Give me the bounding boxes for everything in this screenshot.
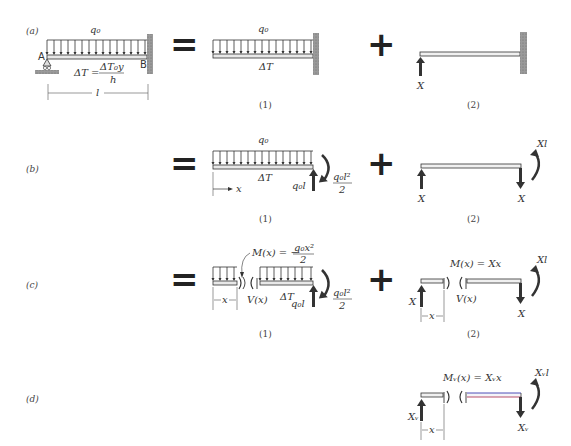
reaction-arrow-up xyxy=(312,291,315,307)
case1-load-label: q₀ xyxy=(258,134,268,145)
case1-fixed-wall xyxy=(313,33,319,75)
case2-caption: (2) xyxy=(467,329,480,339)
temp-denominator: h xyxy=(110,74,116,85)
case2-fixed-wall xyxy=(520,32,527,74)
row-label-d: (d) xyxy=(26,394,39,404)
moment-eq-denominator: 2 xyxy=(299,254,306,265)
x-dimension-label: x xyxy=(222,294,228,305)
moment-eq-lhs: M(x) = − xyxy=(251,247,299,258)
force-arrow-up-left xyxy=(420,405,423,421)
case2-moment-label: Xl xyxy=(536,138,547,149)
plus-sign-c: + xyxy=(367,259,396,299)
cut-moment-right-icon xyxy=(460,277,462,289)
force-left-label: X xyxy=(408,296,417,307)
case1-temp-label: ΔT xyxy=(258,61,274,72)
plus-sign-b: + xyxy=(367,143,396,183)
force-arrow-down-right xyxy=(519,397,522,412)
moment-numerator: q₀l² xyxy=(333,171,351,182)
force-arrow-up-x xyxy=(419,62,422,76)
temp-numerator: ΔT₀y xyxy=(99,61,124,72)
virtual-moment-equation: Mᵥ(x) = Xᵥx xyxy=(442,372,502,383)
moment-arc-icon xyxy=(322,155,329,180)
force-arrow-down-right xyxy=(519,283,522,298)
left-beam-segment xyxy=(421,279,443,283)
cut-moment-left-icon xyxy=(447,277,449,289)
force-right-label: X xyxy=(517,308,526,319)
left-beam-segment xyxy=(213,281,237,285)
moment-arc-icon xyxy=(532,269,539,296)
length-label: l xyxy=(96,87,99,98)
leader-line xyxy=(242,253,250,275)
force-arrow-up-left xyxy=(420,291,423,307)
case2-force-right-label: X xyxy=(517,193,526,204)
row-label-a: (a) xyxy=(26,26,39,36)
x-dimension-label: x xyxy=(429,424,435,435)
case2-beam xyxy=(420,52,520,56)
case2-caption: (2) xyxy=(467,214,480,224)
row-c-case2: M(x) = Xx X V(x) X Xl x (2) xyxy=(408,254,547,339)
end-moment-arc-icon xyxy=(322,270,329,296)
case1-load-label: q₀ xyxy=(258,23,268,34)
cut-moment-left-icon xyxy=(239,277,241,289)
end-moment-numerator: q₀l² xyxy=(333,287,351,298)
case2-force-left-label: X xyxy=(417,193,426,204)
support-label-b: B xyxy=(140,59,147,70)
beam xyxy=(47,55,147,59)
moment-arc-icon xyxy=(532,153,539,180)
reaction-arrow-up xyxy=(312,175,315,191)
force-right-label: Xᵥ xyxy=(517,422,529,433)
case2-caption: (2) xyxy=(467,100,480,110)
x-axis-arrow-icon xyxy=(228,187,233,191)
left-beam-segment xyxy=(421,393,443,397)
row-b-case1: q₀ ΔT x q₀l q₀l² 2 xyxy=(212,134,353,224)
row-a-original-beam: q₀ A B xyxy=(35,24,153,100)
case1-caption: (1) xyxy=(259,329,272,339)
case2-force-label: X xyxy=(416,80,425,91)
row-label-c: (c) xyxy=(26,280,39,290)
load-label: q₀ xyxy=(90,24,100,35)
case1-beam xyxy=(213,165,313,169)
fixed-wall-b xyxy=(147,34,153,74)
equals-sign-a: = xyxy=(170,24,199,64)
equals-sign-b: = xyxy=(170,143,199,183)
load-arrowheads xyxy=(46,52,147,55)
row-d-virtual-system: Mᵥ(x) = Xᵥx Xᵥ Xᵥ Xᵥl x xyxy=(407,367,549,440)
distributed-load-arrows xyxy=(47,40,147,54)
x-axis-label: x xyxy=(236,183,242,194)
force-left-label: Xᵥ xyxy=(407,411,419,422)
moment-eq-numerator: q₀x² xyxy=(294,242,314,253)
cut-moment-left-icon xyxy=(447,391,449,403)
row-b-case2: X X Xl (2) xyxy=(417,138,547,224)
right-beam-segment xyxy=(467,279,521,283)
shear-label: V(x) xyxy=(456,293,477,304)
case1-caption: (1) xyxy=(259,214,272,224)
case1-caption: (1) xyxy=(259,100,272,110)
row-a-case2: X (2) xyxy=(416,32,527,110)
shear-label: V(x) xyxy=(247,294,268,305)
moment-label: Xᵥl xyxy=(534,367,549,378)
cut-moment-right-icon xyxy=(460,391,462,403)
beam-superposition-diagram: (a) (b) (c) (d) q₀ xyxy=(0,0,571,446)
case1-beam xyxy=(213,54,313,58)
right-beam-segment xyxy=(260,281,313,285)
reaction-label: q₀l xyxy=(292,180,306,191)
row-label-b: (b) xyxy=(26,164,39,174)
moment-arc-icon xyxy=(532,382,539,409)
reaction-label: q₀l xyxy=(291,298,305,309)
cut-moment-right-icon xyxy=(251,277,253,289)
case2-beam xyxy=(421,164,521,168)
end-moment-denominator: 2 xyxy=(338,300,345,311)
moment-label: Xl xyxy=(536,254,547,265)
row-a-case1: q₀ ΔT (1) xyxy=(212,23,320,110)
case1-temp-label: ΔT xyxy=(257,172,273,183)
temp-lhs: ΔT = xyxy=(73,67,99,78)
moment-denominator: 2 xyxy=(338,184,345,195)
support-label-a: A xyxy=(38,51,45,62)
force-arrow-up-left xyxy=(420,175,423,189)
plus-sign-a: + xyxy=(367,24,396,64)
row-c-case1: M(x) = − q₀x² 2 xyxy=(212,242,353,339)
right-beam-segment xyxy=(467,393,521,397)
x-dimension-label: x xyxy=(429,310,435,321)
force-arrow-down-right xyxy=(519,168,522,183)
equals-sign-c: = xyxy=(170,259,199,299)
